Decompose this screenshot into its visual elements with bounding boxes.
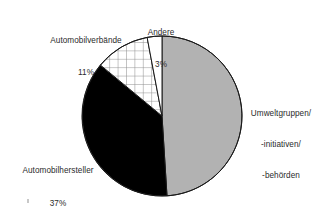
pie-chart-figure: Umweltgruppen/ -initiativen/ -behörden 4… xyxy=(0,0,328,209)
scan-artifact-speck xyxy=(27,199,29,203)
pie-chart-graphic xyxy=(0,0,328,209)
pie-slice-umweltgruppen xyxy=(162,36,242,196)
